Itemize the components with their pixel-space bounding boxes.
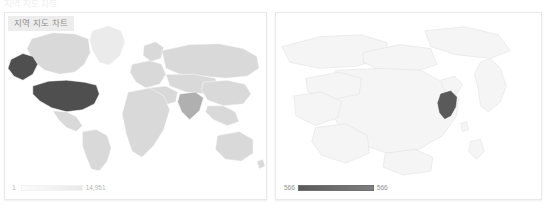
asia-map-svg xyxy=(276,13,541,177)
world-map-svg xyxy=(5,13,266,177)
legend-max-label: 566 xyxy=(377,184,388,192)
world-map-panel[interactable]: 지역 지도 차트 1 14,951 xyxy=(4,12,267,200)
asia-map-canvas[interactable] xyxy=(276,13,541,177)
world-map-canvas[interactable] xyxy=(5,13,266,177)
legend-min-label: 1 xyxy=(12,184,16,192)
asia-map-legend: 566 566 xyxy=(276,177,541,199)
world-map-legend: 1 14,951 xyxy=(5,177,266,199)
world-map-title: 지역 지도 차트 xyxy=(8,16,74,31)
legend-min-label: 566 xyxy=(284,184,295,192)
clipped-header-text: 지역 지도 차트 xyxy=(4,0,124,9)
legend-gradient-bar xyxy=(21,185,83,191)
legend-gradient-bar xyxy=(298,185,374,191)
screenshot-root: 지역 지도 차트 xyxy=(0,0,546,212)
asia-map-panel[interactable]: 566 566 xyxy=(275,12,542,200)
legend-max-label: 14,951 xyxy=(86,184,106,192)
